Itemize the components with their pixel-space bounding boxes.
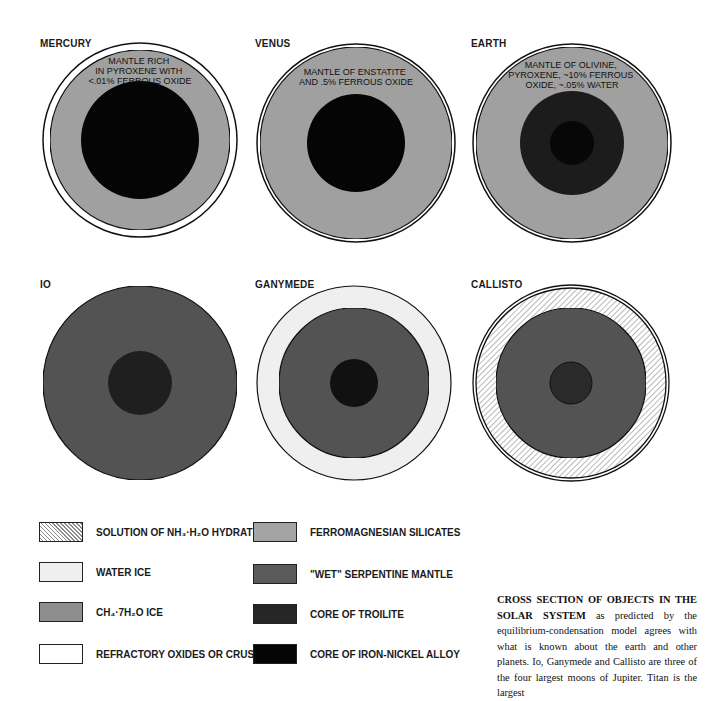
legend-ch4-ice: CH₄·7H₂O ICE	[39, 601, 163, 623]
iron-nickel-swatch	[253, 644, 297, 664]
legend-troilite: CORE OF TROILITE	[253, 603, 404, 625]
refractory-swatch	[39, 644, 83, 664]
legend-iron-nickel: CORE OF IRON-NICKEL ALLOY	[253, 643, 460, 665]
legend-nh3-hydrate: SOLUTION OF NH₃·H₂O HYDRATE	[39, 521, 259, 543]
hatched-swatch	[39, 522, 83, 542]
troilite-swatch	[253, 604, 297, 624]
caption-text: as predicted by the equilibrium-condensa…	[497, 610, 697, 699]
callisto-cross-section	[473, 285, 669, 481]
legend-serpentine: "WET" SERPENTINE MANTLE	[253, 563, 453, 585]
serpentine-swatch	[253, 564, 297, 584]
water-ice-swatch	[39, 562, 83, 582]
legend-refractory-crust: REFRACTORY OXIDES OR CRUST	[39, 643, 260, 665]
mercury-cross-section: MANTLE RICH IN PYROXENE WITH <.01% FERRO…	[43, 43, 237, 237]
legend-water-ice: WATER ICE	[39, 561, 151, 583]
io-cross-section	[43, 286, 237, 480]
venus-annotation: MANTLE OF ENSTATITE AND .5% FERROUS OXID…	[299, 67, 413, 87]
iron-nickel-core	[81, 81, 199, 199]
figure-caption: CROSS SECTION OF OBJECTS IN THE SOLAR SY…	[497, 592, 697, 701]
venus-cross-section: MANTLE OF ENSTATITE AND .5% FERROUS OXID…	[257, 44, 455, 242]
ganymede-cross-section	[257, 286, 451, 480]
ch4-ice-swatch	[39, 602, 83, 622]
earth-cross-section: MANTLE OF OLIVINE, PYROXENE, ~10% FERROU…	[473, 44, 671, 242]
ferromagnesian-swatch	[253, 522, 297, 542]
legend-ferromagnesian: FERROMAGNESIAN SILICATES	[253, 521, 460, 543]
earth-annotation: MANTLE OF OLIVINE, PYROXENE, ~10% FERROU…	[508, 60, 635, 90]
